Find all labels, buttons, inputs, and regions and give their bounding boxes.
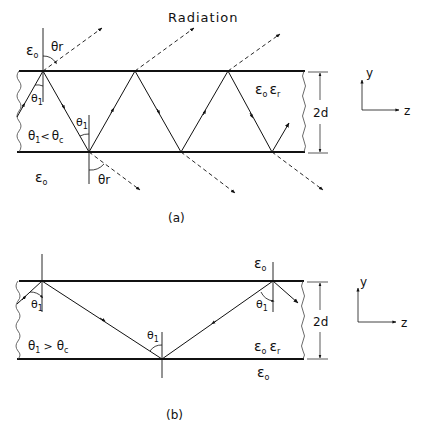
radiation-ray [135,28,194,71]
ray-direction-arrow [22,105,24,109]
radiation-ray [89,152,140,190]
theta-1-right-label: θ1 [256,298,268,313]
epsilon-0-upper-label: εo [26,42,39,60]
figure-a: Radiation εo θr θ1 θ1 θ1<θc εo θr εoεr 2… [17,10,410,225]
condition-label-b: θ1>θc [28,339,68,355]
left-break-line [16,281,20,359]
angle-arc-theta-1-top [35,85,43,86]
radiation-label: Radiation [168,10,238,25]
epsilon-0-lower-label: εo [257,364,270,382]
theta-1-left-label: θ1 [31,298,43,313]
right-break-line [302,281,305,359]
y-axis-label: y [360,275,367,289]
guided-ray [17,281,273,359]
angle-arc-theta-1-mid [150,345,162,351]
epsilon-0-upper-label: εo [254,255,267,273]
z-axis-label: z [404,104,410,118]
angle-arc-theta-1-left [30,292,42,297]
dielectric-slab-diagram: Radiation εo θr θ1 θ1 θ1<θc εo θr εoεr 2… [0,0,425,432]
theta-r-top-label: θr [51,40,63,54]
theta-1-top-label: θ1 [31,92,43,107]
angle-arc-theta-1-right [261,292,273,301]
epsilon-r-label-b: εoεr [254,338,281,356]
epsilon-r-label-a: εoεr [255,81,281,99]
thickness-label-b: 2d [313,315,328,329]
angle-arc-theta-r-top [43,56,56,63]
angle-arc-theta-1-bottom [80,134,89,136]
caption-a: (a) [168,211,185,225]
z-axis-label: z [401,316,407,330]
epsilon-0-lower-label: εo [35,169,48,187]
thickness-label-a: 2d [313,106,328,120]
radiation-ray [272,152,323,190]
caption-b: (b) [166,408,183,422]
theta-1-bottom-label: θ1 [76,116,88,131]
condition-label-a: θ1<θc [28,129,63,145]
theta-1-mid-label: θ1 [147,329,159,344]
right-break-line [303,71,306,152]
theta-r-bottom-label: θr [98,173,110,187]
y-axis-label: y [366,66,373,80]
reflected-ray [273,281,298,303]
angle-arc-theta-r-bottom [89,164,104,170]
figure-b: θ1 θ1 θ1 θ1>θc εo εoεr εo 2d y z (b) [16,254,407,422]
radiation-ray [228,34,280,71]
reflected-ray [272,123,289,152]
radiation-ray [181,152,235,193]
